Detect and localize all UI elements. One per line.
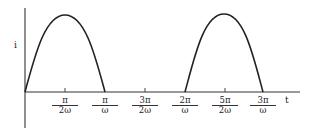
tick-label-3pi-over-2omega: 3π2ω — [132, 96, 158, 115]
tick-label-3pi-over-omega: 3πω — [250, 96, 276, 115]
tick-label-5pi-over-2omega: 5π2ω — [212, 96, 238, 115]
current-curve-half-wave-1 — [25, 15, 105, 92]
x-tick-marks — [65, 88, 225, 92]
tick-label-pi-over-omega: πω — [92, 96, 118, 115]
x-axis-label: t — [285, 95, 289, 105]
tick-label-pi-over-2omega: π2ω — [52, 96, 78, 115]
y-axis-label: i — [14, 40, 17, 50]
tick-label-2pi-over-omega: 2πω — [172, 96, 198, 115]
current-curve-half-wave-2 — [185, 14, 263, 92]
